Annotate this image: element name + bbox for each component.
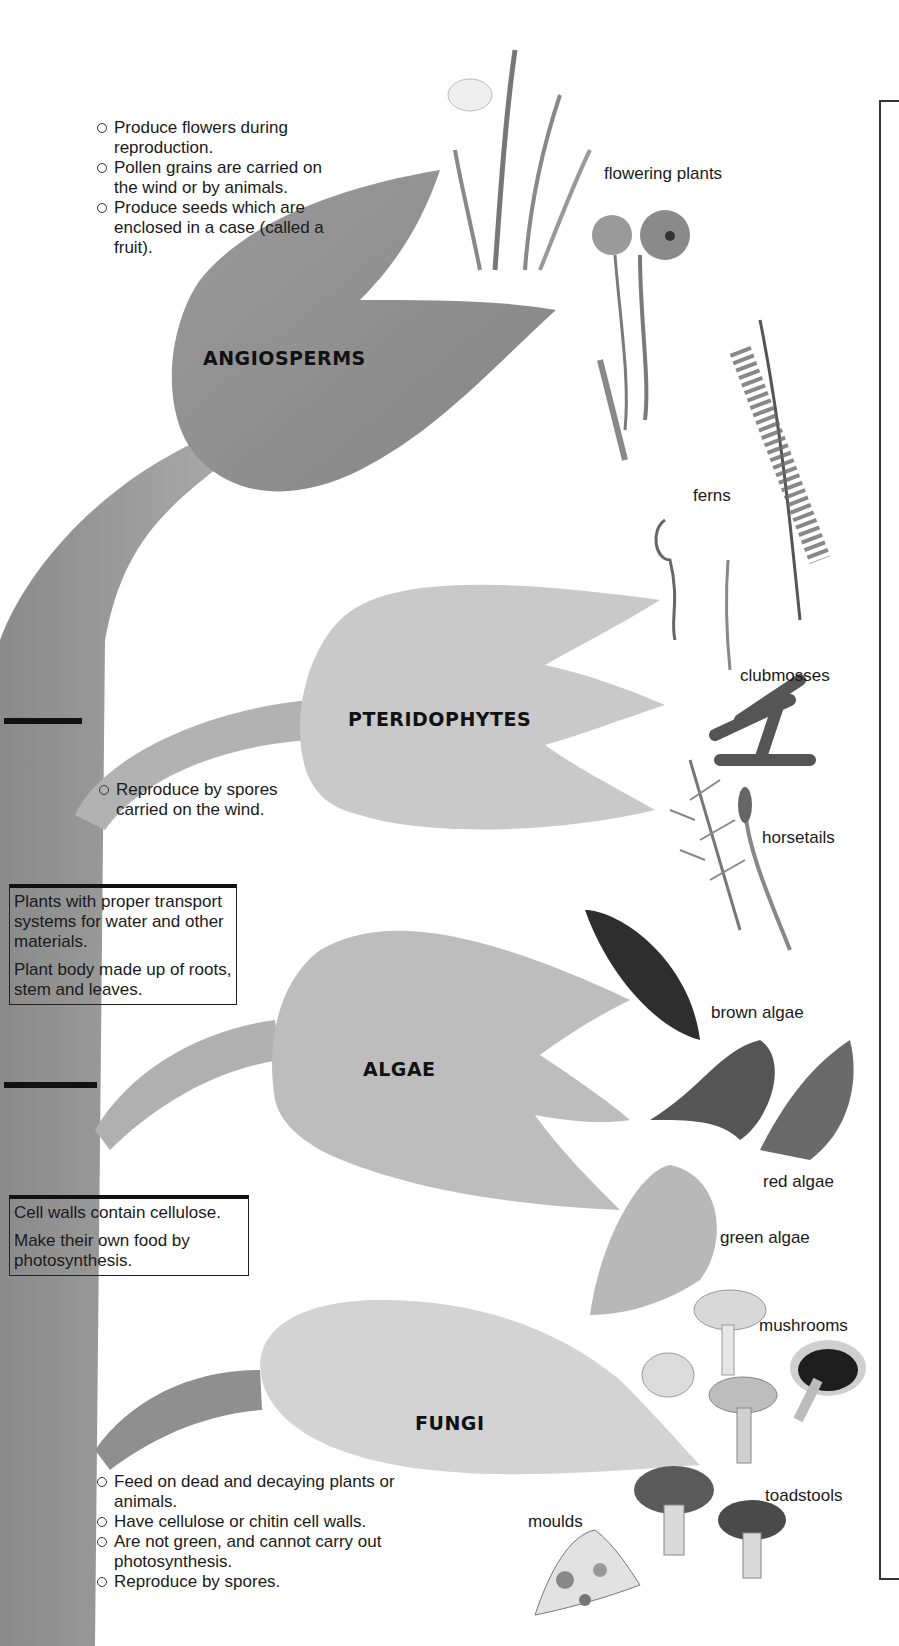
vascular-plants-box: Plants with proper transport systems for… <box>9 884 237 1005</box>
leaf-fungi <box>260 1300 700 1474</box>
box-line: Plant body made up of roots, stem and le… <box>14 960 232 1000</box>
pteridophytes-features: Reproduce by spores carried on the wind. <box>98 780 318 820</box>
example-label-toadstools: toadstools <box>765 1486 843 1506</box>
group-label-algae: ALGAE <box>363 1058 436 1080</box>
illustration-red-algae <box>650 1040 854 1160</box>
illustration-green-algae <box>590 1165 717 1315</box>
feature-item: Produce flowers during reproduction. <box>96 118 336 158</box>
group-label-fungi: FUNGI <box>415 1412 484 1434</box>
group-label-pteridophytes: PTERIDOPHYTES <box>348 708 531 730</box>
example-label-red-algae: red algae <box>763 1172 834 1192</box>
illustration-horsetails <box>670 760 790 950</box>
box-line: Plants with proper transport systems for… <box>14 892 232 952</box>
angiosperms-features: Produce flowers during reproduction. Pol… <box>96 118 336 258</box>
example-label-flowering-plants: flowering plants <box>604 164 722 184</box>
feature-item: Are not green, and cannot carry out phot… <box>96 1532 426 1572</box>
feature-item: Feed on dead and decaying plants or anim… <box>96 1472 426 1512</box>
feature-item: Produce seeds which are enclosed in a ca… <box>96 198 336 258</box>
example-label-ferns: ferns <box>693 486 731 506</box>
feature-item: Pollen grains are carried on the wind or… <box>96 158 336 198</box>
plants-box: Cell walls contain cellulose. Make their… <box>9 1195 249 1276</box>
leaf-algae <box>272 931 630 1210</box>
illustration-flowering-plants <box>448 50 690 460</box>
feature-item: Reproduce by spores carried on the wind. <box>98 780 318 820</box>
branch-algae <box>95 1020 280 1150</box>
example-label-mushrooms: mushrooms <box>759 1316 848 1336</box>
illustration-ferns <box>656 320 820 640</box>
examples-bracket <box>879 100 899 1580</box>
box-line: Make their own food by photosynthesis. <box>14 1231 244 1271</box>
divider-bar <box>4 718 82 724</box>
illustration-toadstools <box>634 1466 786 1578</box>
example-label-moulds: moulds <box>528 1512 583 1532</box>
illustration-moulds <box>535 1530 640 1615</box>
example-label-horsetails: horsetails <box>762 828 835 848</box>
example-label-brown-algae: brown algae <box>711 1003 804 1023</box>
example-label-clubmosses: clubmosses <box>740 666 830 686</box>
box-line: Cell walls contain cellulose. <box>14 1203 244 1223</box>
illustration-brown-algae <box>585 910 700 1040</box>
group-label-angiosperms: ANGIOSPERMS <box>203 347 366 369</box>
feature-item: Reproduce by spores. <box>96 1572 426 1592</box>
feature-item: Have cellulose or chitin cell walls. <box>96 1512 426 1532</box>
divider-bar <box>4 1082 97 1088</box>
branch-fungi <box>95 1370 262 1470</box>
example-label-green-algae: green algae <box>720 1228 810 1248</box>
fungi-features: Feed on dead and decaying plants or anim… <box>96 1472 426 1592</box>
